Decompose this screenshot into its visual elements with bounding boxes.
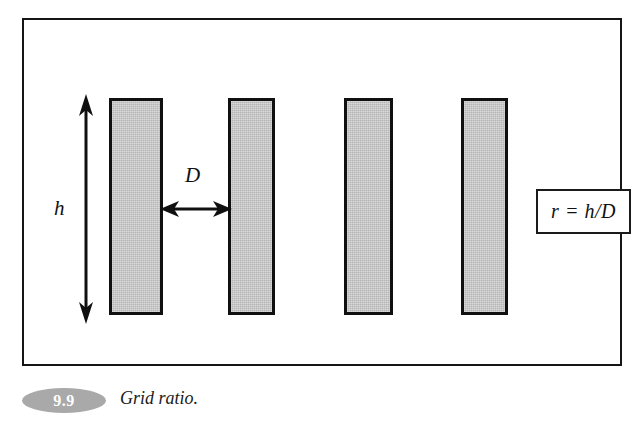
height-label: h [54,198,65,219]
figure-caption: 9.9 Grid ratio. [0,382,635,427]
grid-bar [461,98,508,315]
grid-bar [228,98,275,315]
figure-page: h D r = h/D 9.9 Grid ratio. [0,0,635,445]
grid-bar [109,98,163,315]
grid-bar [344,98,393,315]
formula-text: r = h/D [551,200,616,223]
caption-text: Grid ratio. [120,388,198,409]
spacing-label: D [185,165,200,186]
caption-number: 9.9 [53,392,75,410]
figure-frame: h D r = h/D [22,18,622,366]
caption-number-badge: 9.9 [22,388,106,413]
formula-box: r = h/D [536,189,631,234]
double-arrow-horizontal-icon [160,196,232,222]
double-arrow-vertical-icon [72,94,100,324]
